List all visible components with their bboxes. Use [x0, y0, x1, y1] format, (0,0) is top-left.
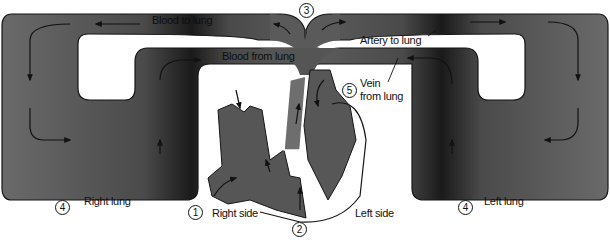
- label-left-lung: Left lung: [484, 196, 524, 207]
- label-vein-from-lung-2: from lung: [360, 91, 403, 102]
- label-vein-from-lung-1: Vein: [360, 78, 380, 89]
- label-left-side: Left side: [355, 208, 394, 219]
- label-blood-from-lung: Blood from lung: [222, 51, 295, 62]
- left-lung-vessels: [306, 14, 608, 200]
- marker-5: 5: [342, 83, 357, 98]
- marker-3: 3: [299, 3, 314, 18]
- marker-4-left-lung: 4: [458, 200, 473, 215]
- label-right-side: Right side: [212, 208, 258, 219]
- label-blood-to-lung: Blood to lung: [152, 15, 212, 26]
- label-artery-to-lung: Artery to lung: [360, 35, 421, 46]
- label-right-lung: Right lung: [84, 196, 131, 207]
- marker-2: 2: [292, 222, 307, 237]
- marker-4-right-lung: 4: [55, 200, 70, 215]
- marker-1: 1: [188, 205, 203, 220]
